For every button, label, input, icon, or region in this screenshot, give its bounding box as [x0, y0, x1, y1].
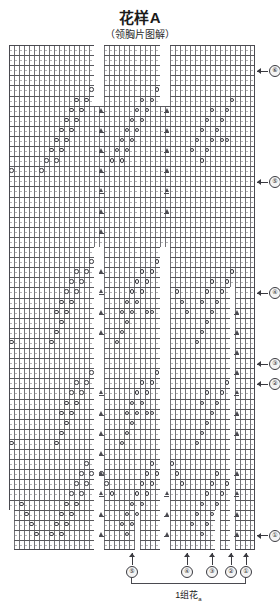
yarn-over-icon	[130, 310, 134, 314]
yarn-over-icon	[69, 128, 73, 132]
yarn-over-icon	[150, 310, 154, 314]
yarn-over-icon	[175, 471, 179, 475]
yarn-over-icon	[135, 390, 139, 394]
decrease-icon	[99, 330, 103, 334]
yarn-over-icon	[89, 259, 93, 263]
yarn-over-icon	[135, 279, 139, 283]
yarn-over-icon	[130, 421, 134, 425]
yarn-over-icon	[54, 310, 58, 314]
yarn-over-icon	[64, 421, 68, 425]
decrease-icon	[99, 148, 103, 152]
decrease-icon	[165, 168, 169, 172]
yarn-over-icon	[69, 411, 73, 415]
yarn-over-icon	[140, 289, 144, 293]
yarn-over-icon	[140, 502, 144, 506]
decrease-icon	[165, 148, 169, 152]
yarn-over-icon	[84, 380, 88, 384]
row-marker: ②	[257, 378, 280, 390]
row-marker-arrow-icon	[257, 535, 268, 536]
yarn-over-icon	[69, 512, 73, 516]
yarn-over-icon	[84, 481, 88, 485]
yarn-over-icon	[74, 98, 78, 102]
yarn-over-icon	[79, 279, 83, 283]
yarn-over-icon	[69, 300, 73, 304]
repeat-label-sub: a	[198, 596, 201, 602]
yarn-over-icon	[140, 118, 144, 122]
yarn-over-icon	[54, 522, 58, 526]
yarn-over-icon	[54, 158, 58, 162]
yarn-over-icon	[140, 269, 144, 273]
yarn-over-icon	[59, 431, 63, 435]
yarn-over-icon	[29, 522, 33, 526]
yarn-over-icon	[125, 512, 129, 516]
row-marker-label: ③	[269, 358, 280, 370]
yarn-over-icon	[140, 380, 144, 384]
yarn-over-icon	[64, 138, 68, 142]
yarn-over-icon	[135, 411, 139, 415]
yarn-over-icon	[135, 108, 139, 112]
decrease-icon	[99, 108, 103, 112]
row-marker-label: ④	[269, 287, 280, 299]
yarn-over-icon	[140, 401, 144, 405]
decrease-icon	[99, 269, 103, 273]
yarn-over-icon	[84, 461, 88, 465]
yarn-over-icon	[130, 289, 134, 293]
decrease-icon	[235, 491, 239, 495]
yarn-over-icon	[74, 401, 78, 405]
decrease-icon	[165, 512, 169, 516]
row-marker: ③	[257, 358, 280, 370]
column-marker-label: ⑤	[126, 566, 138, 578]
yarn-over-icon	[155, 87, 159, 91]
yarn-over-icon	[130, 522, 134, 526]
yarn-over-icon	[59, 300, 63, 304]
column-marker: ③	[206, 553, 218, 578]
yarn-over-icon	[59, 532, 63, 536]
yarn-over-icon	[110, 491, 114, 495]
yarn-over-icon	[74, 269, 78, 273]
yarn-over-icon	[230, 269, 234, 273]
yarn-over-icon	[130, 401, 134, 405]
yarn-over-icon	[64, 502, 68, 506]
yarn-over-icon	[150, 98, 154, 102]
yarn-over-icon	[210, 279, 214, 283]
yarn-over-icon	[74, 481, 78, 485]
yarn-over-icon	[125, 411, 129, 415]
yarn-over-icon	[79, 491, 83, 495]
column-marker: ⑤	[126, 553, 138, 578]
grid-cutout	[230, 287, 235, 550]
page-subtitle: （领胸片图解）	[0, 26, 280, 41]
chart-grid	[9, 45, 255, 550]
grid-cutout	[9, 510, 14, 550]
column-marker: ②	[225, 553, 237, 578]
column-marker-label: ③	[206, 566, 218, 578]
yarn-over-icon	[49, 532, 53, 536]
yarn-over-icon	[145, 491, 149, 495]
row-marker-arrow-icon	[257, 364, 268, 365]
decrease-icon	[99, 209, 103, 213]
column-marker-label: ④	[181, 566, 193, 578]
decrease-icon	[99, 471, 103, 475]
yarn-over-icon	[145, 310, 149, 314]
column-marker-arrow-icon	[132, 553, 133, 565]
repeat-bracket-tick-left	[131, 578, 132, 583]
yarn-over-icon	[225, 279, 229, 283]
yarn-over-icon	[205, 491, 209, 495]
yarn-over-icon	[225, 481, 229, 485]
row-marker-arrow-icon	[257, 293, 268, 294]
column-marker: ①	[240, 553, 252, 578]
decrease-icon	[165, 108, 169, 112]
yarn-over-icon	[130, 502, 134, 506]
yarn-over-icon	[120, 158, 124, 162]
decrease-icon	[99, 168, 103, 172]
yarn-over-icon	[135, 300, 139, 304]
yarn-over-icon	[210, 481, 214, 485]
yarn-over-icon	[145, 411, 149, 415]
row-marker: ④	[257, 287, 280, 299]
yarn-over-icon	[79, 390, 83, 394]
yarn-over-icon	[64, 401, 68, 405]
page-title: 花样A	[0, 6, 280, 27]
yarn-over-icon	[79, 108, 83, 112]
yarn-over-icon	[150, 481, 154, 485]
yarn-over-icon	[150, 411, 154, 415]
yarn-over-icon	[205, 390, 209, 394]
